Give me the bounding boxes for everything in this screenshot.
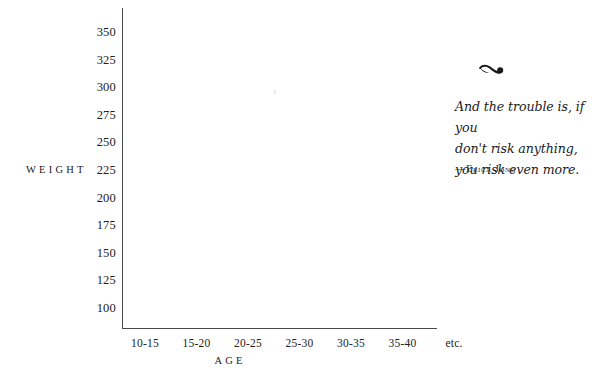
x-axis-tick-label: 35-40 [378,337,428,350]
y-axis-tick-label: 175 [86,219,116,232]
quote-attribution: —Erica Jong [455,163,516,174]
quote-line-1: And the trouble is, if you [455,99,584,135]
flourish-ornament-icon [478,64,504,80]
y-axis-tick-label: 200 [86,192,116,205]
x-axis-title: AGE [0,355,460,366]
y-axis-tick-label: 275 [86,109,116,122]
x-axis-tick-labels: 10-1515-2020-2525-3030-3535-40etc. [122,337,442,353]
y-axis-title: WEIGHT [26,164,87,175]
quote-line-2: don't risk anything, [455,141,578,156]
y-axis-tick-label: 250 [86,136,116,149]
x-axis-tick-label: 10-15 [120,337,170,350]
x-axis-tick-label: 15-20 [172,337,222,350]
y-axis-tick-label: 225 [86,164,116,177]
y-axis-tick-labels: 350325300275250225200175150125100 [86,0,116,386]
x-axis-tick-label: 30-35 [326,337,376,350]
y-axis-tick-label: 350 [86,26,116,39]
page-root: 350325300275250225200175150125100 WEIGHT… [0,0,609,386]
x-axis-line [122,328,437,329]
y-axis-tick-label: 125 [86,274,116,287]
plot-artifact-smudge [273,90,276,95]
y-axis-tick-label: 150 [86,247,116,260]
y-axis-tick-label: 325 [86,54,116,67]
chart-figure: 350325300275250225200175150125100 WEIGHT… [0,0,460,386]
y-axis-tick-label: 300 [86,81,116,94]
x-axis-tick-label: etc. [429,337,479,350]
x-axis-tick-label: 20-25 [223,337,273,350]
y-axis-tick-label: 100 [86,302,116,315]
plot-area [123,8,437,328]
x-axis-tick-label: 25-30 [275,337,325,350]
